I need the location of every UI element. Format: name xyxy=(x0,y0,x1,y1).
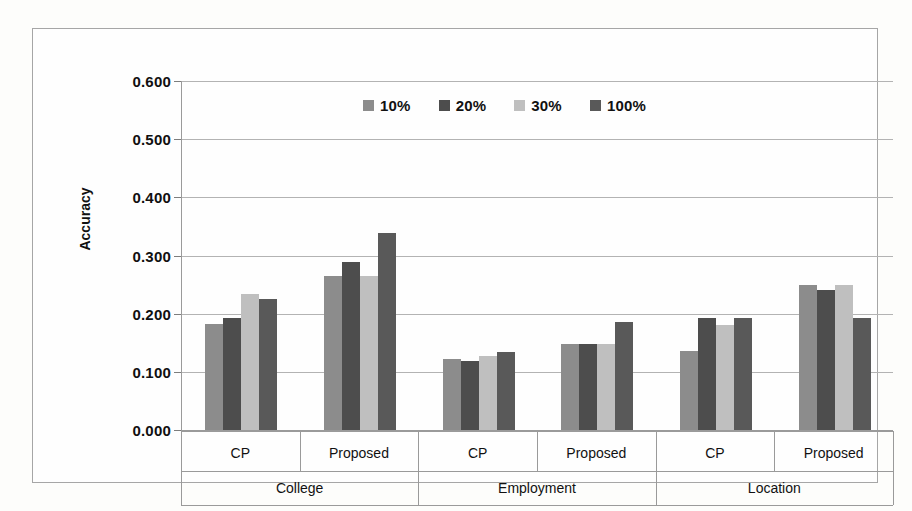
y-axis-tick-labels: 0.0000.1000.2000.3000.4000.5000.600 xyxy=(85,81,171,431)
legend-label: 100% xyxy=(607,97,646,114)
y-axis-tick-label: 0.600 xyxy=(132,73,171,90)
bar xyxy=(561,344,579,430)
category-separator xyxy=(300,431,301,471)
group-separator xyxy=(893,471,894,505)
bar xyxy=(680,351,698,430)
chart-frame: Accuracy 0.0000.1000.2000.3000.4000.5000… xyxy=(32,28,878,483)
bar xyxy=(597,344,615,430)
legend-swatch-icon xyxy=(439,100,450,111)
category-label: Proposed xyxy=(537,439,656,467)
category-label: CP xyxy=(181,439,300,467)
group-axis-bottom-rule xyxy=(181,505,893,506)
legend-swatch-icon xyxy=(363,100,374,111)
category-separator xyxy=(181,431,182,471)
y-axis-tick-label: 0.500 xyxy=(132,131,171,148)
y-axis-tick xyxy=(174,139,181,140)
bar xyxy=(342,262,360,430)
bar xyxy=(324,276,342,430)
legend-item[interactable]: 100% xyxy=(590,97,646,114)
group-separator xyxy=(656,471,657,505)
y-axis-tick xyxy=(174,314,181,315)
bar xyxy=(579,344,597,430)
category-label: Proposed xyxy=(300,439,419,467)
y-axis-tick-label: 0.300 xyxy=(132,247,171,264)
legend-swatch-icon xyxy=(514,100,525,111)
legend-item[interactable]: 30% xyxy=(514,97,562,114)
chart-legend: 10%20%30%100% xyxy=(363,97,646,114)
bar xyxy=(461,361,479,430)
y-axis-tick-label: 0.100 xyxy=(132,363,171,380)
y-axis-tick xyxy=(174,430,181,431)
bars-layer xyxy=(182,81,893,430)
y-axis-tick xyxy=(174,197,181,198)
bar xyxy=(360,276,378,430)
bar xyxy=(223,318,241,430)
bar xyxy=(835,285,853,430)
category-separator xyxy=(537,431,538,471)
legend-label: 10% xyxy=(380,97,411,114)
bar xyxy=(378,233,396,430)
y-axis-tick-label: 0.400 xyxy=(132,189,171,206)
bar xyxy=(479,356,497,430)
group-separator xyxy=(181,471,182,505)
group-axis-rule xyxy=(181,471,893,472)
legend-swatch-icon xyxy=(590,100,601,111)
category-separator xyxy=(418,431,419,471)
category-axis: CPProposedCPProposedCPProposedCollegeEmp… xyxy=(181,431,893,507)
category-label: CP xyxy=(656,439,775,467)
legend-item[interactable]: 10% xyxy=(363,97,411,114)
bar xyxy=(205,324,223,430)
bar xyxy=(241,294,259,430)
scanned-page: Accuracy 0.0000.1000.2000.3000.4000.5000… xyxy=(0,0,912,511)
y-axis-tick xyxy=(174,372,181,373)
legend-item[interactable]: 20% xyxy=(439,97,487,114)
group-label: College xyxy=(181,475,418,501)
bar xyxy=(443,359,461,430)
y-axis-tick xyxy=(174,256,181,257)
category-label: Proposed xyxy=(774,439,893,467)
category-separator xyxy=(774,431,775,471)
bar xyxy=(497,352,515,430)
bar xyxy=(259,299,277,430)
bar xyxy=(853,318,871,430)
legend-label: 20% xyxy=(456,97,487,114)
y-axis-tick xyxy=(174,81,181,82)
bar xyxy=(615,322,633,430)
group-label: Location xyxy=(656,475,893,501)
bar xyxy=(734,318,752,430)
y-axis-tick-label: 0.000 xyxy=(132,422,171,439)
bar xyxy=(716,325,734,430)
bar xyxy=(799,285,817,430)
category-separator xyxy=(893,431,894,471)
group-separator xyxy=(418,471,419,505)
legend-label: 30% xyxy=(531,97,562,114)
category-label: CP xyxy=(418,439,537,467)
y-axis-tick-label: 0.200 xyxy=(132,305,171,322)
category-separator xyxy=(656,431,657,471)
bar xyxy=(817,290,835,430)
group-label: Employment xyxy=(418,475,655,501)
bar xyxy=(698,318,716,430)
